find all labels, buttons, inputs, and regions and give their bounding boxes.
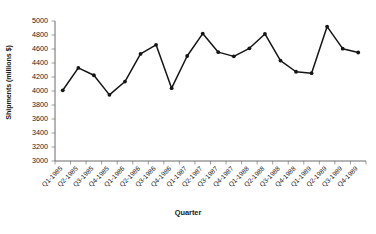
data-point-marker (294, 70, 298, 74)
y-tick-label: 3800 (32, 100, 48, 109)
y-tick-mark-group (52, 21, 56, 161)
data-point-marker (154, 43, 158, 47)
data-point-marker (139, 52, 143, 56)
y-tick-label: 3200 (32, 142, 48, 151)
data-point-marker (247, 46, 251, 50)
y-tick-label: 4400 (32, 58, 48, 67)
y-tick-label: 4000 (32, 86, 48, 95)
plot-area: 5000480046004400420040003800360034003200… (0, 0, 376, 234)
y-tick-label: 4800 (32, 30, 48, 39)
data-point-marker (170, 86, 174, 90)
x-axis-title: Quarter (0, 208, 376, 217)
data-point-marker (216, 50, 220, 54)
data-series-line (63, 27, 358, 95)
data-point-marker (310, 71, 314, 75)
data-point-marker (325, 25, 329, 29)
x-tick-label-group: Q1-1985Q2-1985Q3-1985Q4-1985Q1-1986Q2-19… (40, 165, 359, 189)
y-tick-label: 4200 (32, 72, 48, 81)
data-point-marker (341, 47, 345, 51)
y-tick-label: 3600 (32, 114, 48, 123)
data-point-marker (61, 88, 65, 92)
data-point-marker (201, 32, 205, 36)
x-tick-mark-group (55, 161, 366, 165)
data-point-marker (123, 80, 127, 84)
y-tick-label: 4600 (32, 44, 48, 53)
data-point-marker (185, 54, 189, 58)
data-point-marker (92, 73, 96, 77)
line-chart: Shipments (millions $) 50004800460044004… (0, 0, 376, 234)
y-tick-label: 3400 (32, 128, 48, 137)
data-point-marker (232, 54, 236, 58)
data-point-marker (108, 93, 112, 97)
data-point-marker (279, 59, 283, 63)
y-tick-label: 3000 (32, 156, 48, 165)
data-point-marker (356, 51, 360, 55)
data-point-marker (263, 32, 267, 36)
y-tick-label: 5000 (32, 16, 48, 25)
y-tick-label-group: 5000480046004400420040003800360034003200… (32, 16, 48, 165)
data-point-marker (76, 66, 80, 70)
